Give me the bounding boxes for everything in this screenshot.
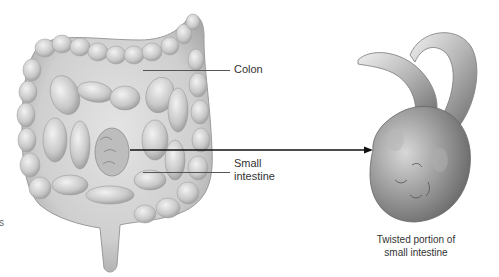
cropped-text-fragment: s bbox=[0, 217, 4, 228]
colon-label: Colon bbox=[234, 63, 263, 76]
twisted-intestine-illustration bbox=[358, 33, 477, 222]
colon-leader-line bbox=[143, 70, 230, 71]
twisted-portion-caption: Twisted portion of small intestine bbox=[366, 233, 466, 259]
caption-line2: small intestine bbox=[366, 246, 466, 259]
caption-line1: Twisted portion of bbox=[366, 233, 466, 246]
intestines-illustration bbox=[17, 14, 212, 272]
small-intestine-label: Small intestine bbox=[234, 157, 275, 183]
small-intestine-label-line2: intestine bbox=[234, 170, 275, 183]
small-intestine-label-line1: Small bbox=[234, 157, 275, 170]
arrowhead-icon bbox=[364, 147, 373, 154]
small-intestine-leader-line bbox=[143, 172, 230, 173]
